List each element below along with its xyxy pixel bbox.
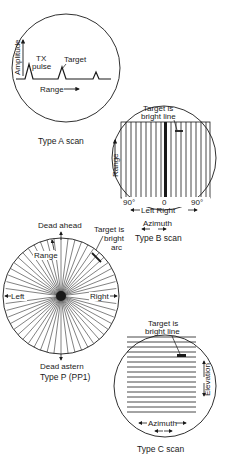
type-b-left-deg: 90° (123, 198, 135, 207)
type-p-right-label: Right (90, 292, 109, 301)
type-p-target-line1: Target is (94, 225, 124, 234)
type-b-target-leader (174, 120, 177, 130)
type-a-target-leader (62, 64, 66, 69)
type-a-scan: Amplitude TX pulse Target Range Type A s… (12, 14, 120, 146)
type-p-range-arrow-icon (52, 240, 54, 250)
type-a-range-label: Range (40, 85, 64, 94)
radar-scan-diagram: Amplitude TX pulse Target Range Type A s… (0, 0, 231, 463)
type-p-center-spot (56, 291, 66, 301)
type-c-target-blip (177, 354, 186, 357)
type-p-dead-ahead-label: Dead ahead (38, 221, 82, 230)
type-a-trace (16, 64, 111, 79)
type-c-elevation-label: Elevation (203, 363, 212, 396)
type-a-caption: Type A scan (38, 136, 84, 146)
type-p-target-line3: arc (111, 243, 122, 252)
type-b-right-deg: 90° (191, 198, 203, 207)
type-b-caption: Type B scan (135, 233, 182, 243)
type-p-scan: Dead ahead Range Left Right Target is br… (3, 221, 125, 382)
type-b-center-bright-line (164, 122, 167, 198)
type-c-horizontal-lines (127, 337, 196, 412)
type-p-target-leader (96, 236, 103, 250)
type-a-target-label: Target (64, 55, 87, 64)
type-c-target-leader (172, 336, 180, 354)
type-c-scan: Target is bright line Elevation Azimuth … (114, 319, 216, 454)
type-a-pulse-label: pulse (32, 62, 52, 71)
type-c-target-line2: bright line (145, 327, 180, 336)
type-p-range-label: Range (34, 251, 58, 260)
type-c-caption: Type C scan (137, 444, 185, 454)
type-b-target-line2: bright line (141, 112, 176, 121)
type-b-left-right-label: Left Right (141, 206, 176, 215)
type-a-amplitude-label: Amplitude (13, 39, 22, 75)
type-p-caption: Type P (PP1) (40, 372, 91, 382)
type-b-scan: Target is bright line Range 90° 0 90° Le… (111, 104, 216, 243)
type-p-left-label: Left (11, 292, 25, 301)
type-c-azimuth-label: Azimuth (148, 419, 177, 428)
type-p-dead-astern-label: Dead astern (40, 362, 84, 371)
type-p-target-arc (92, 253, 101, 262)
type-b-range-label: Range (111, 153, 120, 177)
type-p-target-line2: bright (104, 234, 125, 243)
type-b-azimuth-label: Azimuth (143, 219, 172, 228)
